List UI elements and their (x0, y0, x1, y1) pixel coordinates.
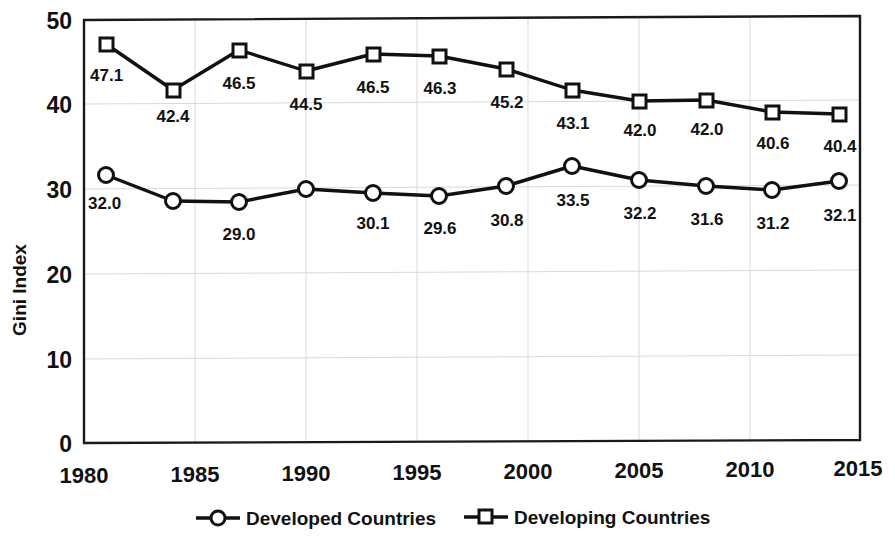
data-label-developing-1993: 46.5 (356, 78, 389, 97)
y-tick-label-0: 0 (59, 431, 72, 457)
data-point-developing-1996 (433, 50, 446, 63)
x-tick-label-2015: 2015 (834, 456, 883, 481)
data-label-developed-1987: 29.0 (222, 225, 255, 244)
data-point-developing-2014 (833, 108, 846, 121)
square-marker-icon (479, 510, 492, 523)
data-point-developing-2005 (633, 95, 646, 108)
data-label-developing-2005: 42.0 (623, 121, 656, 140)
legend-label-developed: Developed Countries (246, 508, 436, 529)
data-point-developed-1984 (166, 194, 181, 209)
data-point-developed-2002 (565, 159, 580, 174)
data-point-developing-1981 (100, 38, 113, 51)
data-label-developed-2005: 33.5 (556, 191, 589, 210)
data-point-developing-2002 (566, 84, 579, 97)
data-label-developing-1996: 46.3 (423, 79, 456, 98)
data-point-developed-1999 (499, 179, 514, 194)
data-point-developing-1999 (500, 63, 513, 76)
chart-canvas: Gini Index 50 40 30 20 10 0 1980 1985 19… (0, 0, 895, 543)
data-label-developing-1987: 46.5 (222, 74, 255, 93)
data-point-developing-1990 (300, 65, 313, 78)
data-label-developing-1999: 45.2 (490, 93, 523, 112)
y-tick-label-30: 30 (46, 177, 72, 203)
data-label-developed-1981: 32.0 (88, 194, 121, 213)
y-tick-label-10: 10 (46, 347, 72, 373)
data-point-developing-1987 (233, 44, 246, 57)
data-label-developing-2014: 40.4 (823, 137, 857, 156)
y-tick-label-40: 40 (46, 92, 72, 118)
data-label-developed-2011: 31.6 (690, 210, 723, 229)
data-point-developing-2008 (700, 94, 713, 107)
data-label-developing-1981: 47.1 (90, 66, 123, 85)
x-tick-label-1985: 1985 (171, 462, 220, 487)
data-label-developing-1990: 44.5 (289, 95, 322, 114)
data-point-developed-1993 (366, 186, 381, 201)
data-point-developing-1984 (167, 84, 180, 97)
legend-label-developing: Developing Countries (514, 507, 710, 528)
data-label-developing-1984: 42.4 (156, 107, 190, 126)
data-point-developed-2008 (699, 179, 714, 194)
data-point-developing-1993 (367, 48, 380, 61)
data-label-developing-2008: 42.0 (690, 120, 723, 139)
data-point-developed-2011 (765, 183, 780, 198)
x-tick-label-1990: 1990 (282, 461, 331, 486)
data-point-developed-1996 (432, 189, 447, 204)
gini-index-line-chart: Gini Index 50 40 30 20 10 0 1980 1985 19… (0, 0, 895, 543)
data-label-developed-2013: 31.2 (756, 214, 789, 233)
data-label-developing-2002: 43.1 (556, 114, 589, 133)
y-tick-label-50: 50 (46, 8, 72, 34)
data-point-developed-2005 (632, 173, 647, 188)
data-point-developing-2011 (766, 106, 779, 119)
data-point-developed-1990 (299, 182, 314, 197)
data-label-developing-2011: 40.6 (756, 134, 789, 153)
circle-marker-icon (211, 511, 225, 525)
x-tick-label-2000: 2000 (504, 459, 553, 484)
y-tick-label-20: 20 (46, 262, 72, 288)
data-label-developed-1999: 29.6 (423, 219, 456, 238)
data-label-developed-2008: 32.2 (623, 204, 656, 223)
data-point-developed-1981 (99, 168, 114, 183)
x-tick-label-2010: 2010 (726, 457, 775, 482)
data-label-developed-1993: 30.1 (356, 214, 389, 233)
x-tick-label-2005: 2005 (615, 458, 664, 483)
data-point-developed-2014 (832, 174, 847, 189)
x-tick-label-1980: 1980 (60, 463, 109, 488)
x-tick-label-1995: 1995 (393, 460, 442, 485)
data-label-developed-2014: 32.1 (823, 206, 856, 225)
data-point-developed-1987 (232, 195, 247, 210)
data-label-developed-2002: 30.8 (490, 211, 523, 230)
y-axis-title: Gini Index (9, 244, 30, 336)
